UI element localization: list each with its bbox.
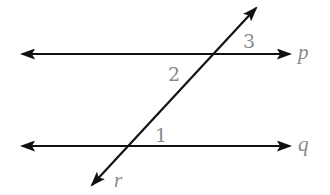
line-label-q: q [298, 132, 309, 156]
parallel-lines-transversal-diagram: 1 2 3 p q r [0, 0, 330, 195]
angle-label-2: 2 [168, 63, 180, 85]
angle-label-3: 3 [243, 30, 255, 52]
angle-label-1: 1 [155, 124, 167, 146]
line-label-r: r [114, 168, 123, 192]
transversal-r [92, 8, 256, 185]
line-label-p: p [296, 40, 309, 64]
